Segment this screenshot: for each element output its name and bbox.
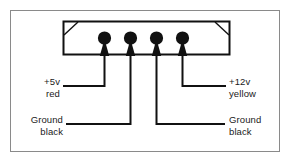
lead-wire-ground-right bbox=[157, 55, 226, 124]
label-12v-line2: yellow bbox=[229, 88, 277, 100]
lead-wire-5v bbox=[63, 55, 105, 86]
label-12v-yellow: +12v yellow bbox=[229, 76, 277, 99]
label-5v-red: +5v red bbox=[24, 76, 60, 99]
label-12v-line1: +12v bbox=[229, 76, 277, 88]
label-5v-line1: +5v bbox=[24, 76, 60, 88]
label-5v-line2: red bbox=[24, 88, 60, 100]
label-ground-right-line1: Ground bbox=[229, 114, 280, 126]
lead-wire-12v bbox=[183, 55, 227, 86]
label-ground-right: Ground black bbox=[229, 114, 280, 137]
connector-housing-outline bbox=[64, 22, 230, 55]
label-ground-left: Ground black bbox=[12, 114, 63, 137]
label-ground-right-line2: black bbox=[229, 126, 280, 138]
wiring-diagram-figure: +5v red +12v yellow Ground black Ground … bbox=[0, 0, 290, 163]
lead-wire-ground-left bbox=[66, 55, 131, 124]
label-ground-left-line2: black bbox=[12, 126, 63, 138]
label-ground-left-line1: Ground bbox=[12, 114, 63, 126]
